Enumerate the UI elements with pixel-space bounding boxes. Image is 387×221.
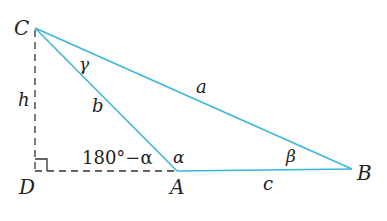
side-h-label: h	[18, 89, 30, 110]
right-angle-marker	[35, 159, 47, 171]
angle-alpha-label: α	[173, 147, 185, 167]
angle-gamma-label: γ	[79, 54, 90, 74]
angle-exterior-label: 180°−α	[82, 147, 153, 168]
vertex-C-label: C	[14, 16, 29, 40]
side-c-label: c	[263, 173, 273, 194]
angle-beta-label: β	[285, 146, 296, 166]
side-c-line	[177, 169, 352, 171]
side-b-label: b	[92, 95, 104, 116]
vertex-A-label: A	[168, 175, 184, 199]
vertex-B-label: B	[356, 161, 372, 185]
side-a-label: a	[196, 76, 207, 97]
triangle-diagram: C D A B h b a c γ α β 180°−α	[0, 0, 387, 221]
vertex-D-label: D	[18, 175, 35, 199]
